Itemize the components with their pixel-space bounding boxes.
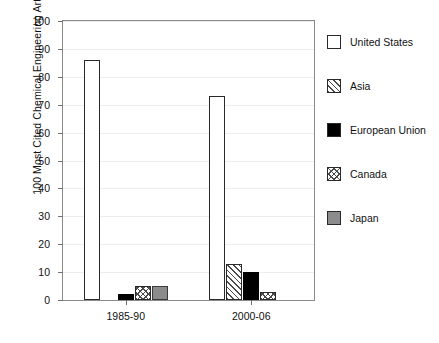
bar	[260, 292, 276, 300]
bar	[243, 272, 259, 300]
x-axis-tick	[251, 300, 252, 305]
y-axis-tick: 0	[58, 300, 63, 301]
legend-label: European Union	[350, 124, 426, 136]
legend-item: European Union	[327, 122, 437, 138]
bar-group-container	[63, 21, 314, 300]
y-axis-tick-label: 100	[32, 15, 50, 27]
bar-chart: 100 Most Cited Chemical Engineering Arti…	[0, 0, 439, 343]
y-axis-tick-label: 20	[38, 238, 50, 250]
swatch-crosshatch-icon	[327, 167, 341, 181]
legend-item: Asia	[327, 78, 437, 94]
legend-label: Canada	[350, 168, 387, 180]
y-axis-tick-label: 50	[38, 155, 50, 167]
y-axis-tick-label: 0	[44, 294, 50, 306]
x-axis-tick	[126, 300, 127, 305]
bar	[209, 96, 225, 300]
legend-item: Canada	[327, 166, 437, 182]
swatch-hatch-icon	[327, 79, 341, 93]
legend-label: United States	[350, 36, 413, 48]
legend-item: Japan	[327, 210, 437, 226]
swatch-solid-gray-icon	[327, 211, 341, 225]
bar	[84, 60, 100, 300]
y-axis-tick-label: 70	[38, 99, 50, 111]
chart-legend: United StatesAsiaEuropean UnionCanadaJap…	[327, 34, 437, 254]
y-axis-tick-label: 80	[38, 71, 50, 83]
y-axis-tick-label: 90	[38, 43, 50, 55]
bar	[226, 264, 242, 300]
legend-label: Asia	[350, 80, 370, 92]
legend-label: Japan	[350, 212, 379, 224]
y-axis-tick-label: 30	[38, 210, 50, 222]
plot-area: 0102030405060708090100 1985-902000-06	[62, 20, 315, 301]
y-axis-tick-label: 40	[38, 182, 50, 194]
swatch-empty-icon	[327, 35, 341, 49]
bar	[135, 286, 151, 300]
bar	[152, 286, 168, 300]
x-axis-tick-label: 1985-90	[106, 310, 145, 322]
y-axis-tick-label: 10	[38, 266, 50, 278]
x-axis-tick-label: 2000-06	[232, 310, 271, 322]
legend-item: United States	[327, 34, 437, 50]
y-axis-tick-label: 60	[38, 127, 50, 139]
swatch-solid-black-icon	[327, 123, 341, 137]
